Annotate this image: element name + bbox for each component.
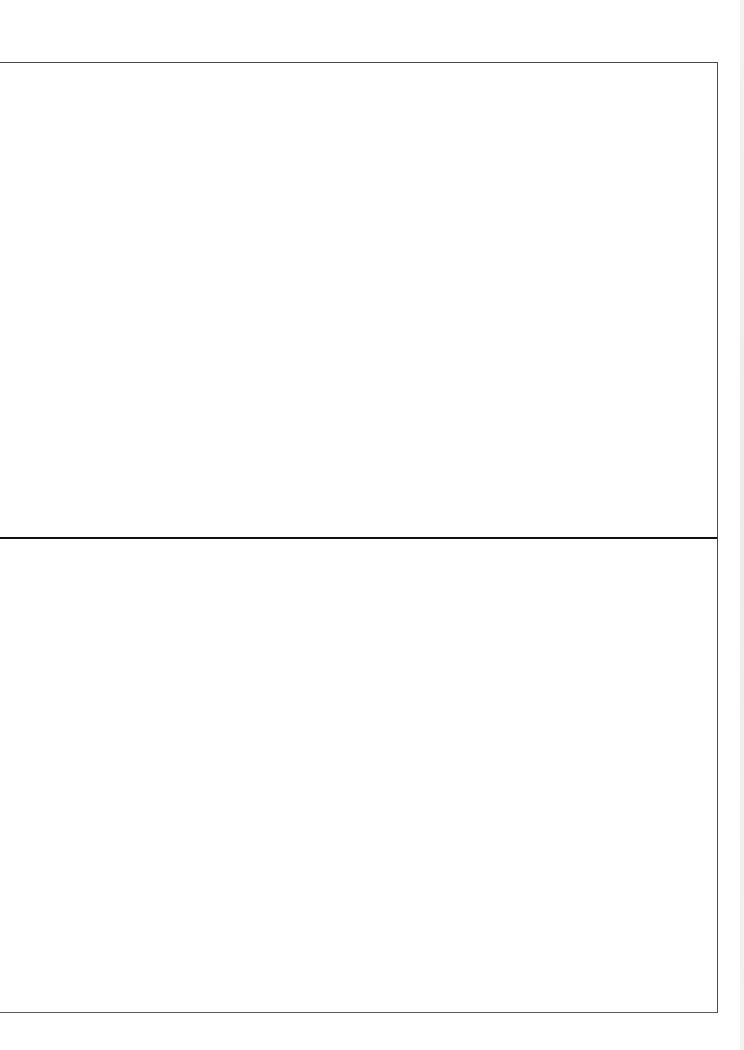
top-panel-box bbox=[0, 62, 718, 539]
scan-edge-shadow bbox=[740, 0, 744, 1050]
bottom-panel-box bbox=[0, 538, 718, 1013]
